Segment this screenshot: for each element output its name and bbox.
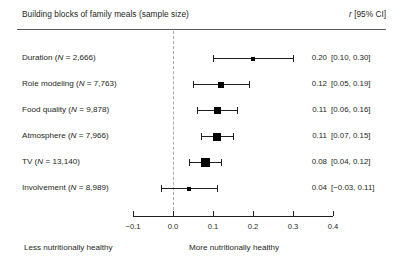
row-label-sample-size: = 9,878) xyxy=(77,105,109,114)
row-label-name: Role modeling ( xyxy=(22,79,79,88)
axis-anchor-right: More nutritionally healthy xyxy=(189,243,279,252)
effect-size-marker xyxy=(201,158,210,167)
x-axis-line xyxy=(133,216,333,217)
x-axis-tick-label: −0.1 xyxy=(113,222,153,231)
x-axis-tick xyxy=(213,211,214,216)
row-label: Role modeling (N = 7,763) xyxy=(22,79,117,88)
row-label-name: TV ( xyxy=(22,157,37,166)
ci-cap-upper xyxy=(217,185,218,192)
effect-size-value: 0.20 xyxy=(297,53,327,62)
row-label-name: Food quality ( xyxy=(22,105,71,114)
row-label-sample-size: = 7,966) xyxy=(76,131,108,140)
row-label: Food quality (N = 9,878) xyxy=(22,105,109,114)
row-label-sample-size: = 7,763) xyxy=(85,79,117,88)
row-label-sample-size: = 13,140) xyxy=(43,157,80,166)
ci-cap-lower xyxy=(189,159,190,166)
effect-size-value: 0.08 xyxy=(297,157,327,166)
effect-size-marker xyxy=(251,57,255,61)
x-axis-tick-label: 0.2 xyxy=(233,222,273,231)
column-header-label: Building blocks of family meals (sample … xyxy=(22,9,189,19)
x-axis-tick xyxy=(173,211,174,216)
row-label: TV (N = 13,140) xyxy=(22,157,80,166)
x-axis-tick xyxy=(293,211,294,216)
row-label-sample-size: = 2,666) xyxy=(63,53,95,62)
row-label: Involvement (N = 8,989) xyxy=(22,183,109,192)
effect-size-value: 0.11 xyxy=(297,105,327,114)
effect-size-marker xyxy=(214,107,221,114)
ci-cap-lower xyxy=(197,107,198,114)
effect-size-value: 0.04 xyxy=(297,183,327,192)
row-label-name: Involvement ( xyxy=(22,183,71,192)
x-axis-tick-label: 0.1 xyxy=(193,222,233,231)
effect-size-value: 0.11 xyxy=(297,131,327,140)
x-axis-tick xyxy=(133,211,134,216)
ci-cap-lower xyxy=(201,133,202,140)
x-axis-tick-label: 0.4 xyxy=(313,222,353,231)
row-label: Duration (N = 2,666) xyxy=(22,53,96,62)
ci-cap-lower xyxy=(213,55,214,62)
confidence-interval-value: [0.04, 0.12] xyxy=(331,157,389,166)
confidence-interval-value: [0.05, 0.19] xyxy=(331,79,389,88)
confidence-interval-value: [0.10, 0.30] xyxy=(331,53,389,62)
axis-anchor-left: Less nutritionally healthy xyxy=(24,243,113,252)
ci-cap-upper xyxy=(249,81,250,88)
row-label-name: Atmosphere ( xyxy=(22,131,71,140)
ci-cap-lower xyxy=(193,81,194,88)
column-header-statistic: r [95% CI] xyxy=(349,9,386,19)
x-axis-tick-label: 0.3 xyxy=(273,222,313,231)
ci-cap-upper xyxy=(221,159,222,166)
row-label-name: Duration ( xyxy=(22,53,58,62)
effect-size-value: 0.12 xyxy=(297,79,327,88)
effect-size-marker xyxy=(218,82,224,88)
confidence-interval-label: [95% CI] xyxy=(352,9,386,19)
x-axis-tick xyxy=(333,211,334,216)
ci-cap-upper xyxy=(233,133,234,140)
row-label: Atmosphere (N = 7,966) xyxy=(22,131,109,140)
effect-size-marker xyxy=(187,187,191,191)
header-divider-rule xyxy=(17,29,386,30)
x-axis-tick-label: 0.0 xyxy=(153,222,193,231)
effect-size-marker xyxy=(213,133,221,141)
confidence-interval-value: [0.06, 0.16] xyxy=(331,105,389,114)
zero-reference-line xyxy=(173,31,174,210)
forest-plot: Building blocks of family meals (sample … xyxy=(0,0,403,277)
ci-cap-upper xyxy=(237,107,238,114)
row-label-sample-size: = 8,989) xyxy=(76,183,108,192)
confidence-interval-value: [0.07, 0.15] xyxy=(331,131,389,140)
ci-cap-upper xyxy=(293,55,294,62)
x-axis-tick xyxy=(253,211,254,216)
ci-cap-lower xyxy=(161,185,162,192)
confidence-interval-value: [−0.03, 0.11] xyxy=(331,183,389,192)
